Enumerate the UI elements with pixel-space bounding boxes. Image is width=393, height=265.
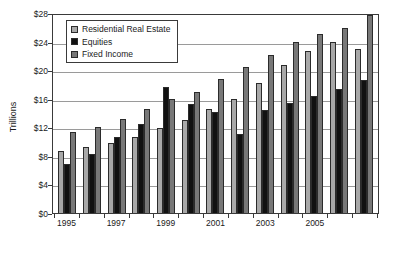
x-axis-tick-label: 2005: [295, 218, 335, 228]
y-axis-tick-label: $12: [8, 123, 48, 133]
y-axis-tick-label: $0: [8, 209, 48, 219]
legend-item-equities: Equities: [71, 37, 170, 47]
y-axis-tick-label: $28: [8, 9, 48, 19]
bar-group: [253, 15, 278, 213]
y-axis-tick-mark: [48, 214, 52, 215]
x-axis-tick-label: 1995: [46, 218, 86, 228]
y-axis-tick-label: $20: [8, 66, 48, 76]
legend-item-residential-real-estate: Residential Real Estate: [71, 24, 170, 34]
bar-group: [203, 15, 228, 213]
bar: [317, 34, 323, 213]
x-axis-tick-mark: [377, 214, 378, 218]
y-axis-tick-label: $8: [8, 152, 48, 162]
legend-label: Residential Real Estate: [82, 24, 170, 34]
bar-group: [178, 15, 203, 213]
bar: [342, 28, 348, 213]
x-axis-tick-label: 2003: [245, 218, 285, 228]
y-axis-tick-label: $4: [8, 180, 48, 190]
bar-group: [228, 15, 253, 213]
legend-swatch-icon-fixed-income: [71, 51, 78, 58]
bar-group: [277, 15, 302, 213]
y-axis-tick-label: $24: [8, 38, 48, 48]
legend-label: Equities: [82, 37, 112, 47]
bar: [218, 79, 224, 213]
x-axis-tick-label: 1999: [146, 218, 186, 228]
bar: [268, 55, 274, 213]
legend-item-fixed-income: Fixed Income: [71, 49, 170, 59]
bar: [293, 42, 299, 213]
bar: [243, 67, 249, 213]
bar: [120, 119, 126, 213]
bar-group: [302, 15, 327, 213]
bar: [169, 99, 175, 213]
y-axis-title: Trillions: [8, 82, 18, 152]
bar-group: [351, 15, 376, 213]
bar: [367, 15, 373, 213]
x-axis-tick-label: 2001: [196, 218, 236, 228]
legend: Residential Real Estate Equities Fixed I…: [66, 20, 178, 63]
bar: [95, 127, 101, 213]
bar: [194, 92, 200, 213]
legend-swatch-icon-residential-real-estate: [71, 26, 78, 33]
bar-group: [327, 15, 352, 213]
y-axis-tick-label: $16: [8, 95, 48, 105]
legend-swatch-icon-equities: [71, 38, 78, 45]
legend-label: Fixed Income: [82, 49, 133, 59]
x-axis-tick-mark: [352, 214, 353, 218]
bar-chart: Trillions $0$4$8$12$16$20$24$28 19951997…: [0, 0, 393, 265]
x-axis-tick-label: 1997: [96, 218, 136, 228]
bar: [70, 132, 76, 213]
bar: [144, 109, 150, 213]
